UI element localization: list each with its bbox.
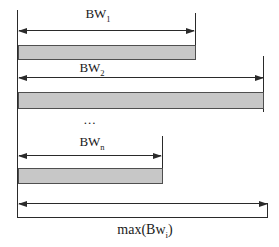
bw1-label: BW1: [58, 7, 138, 23]
bw1-arrowhead-right-icon: [186, 28, 195, 34]
bw1-arrow-shaft: [19, 30, 194, 31]
max-label: max(Bwi): [95, 222, 195, 243]
max-label-base: max(Bw: [117, 222, 165, 237]
max-arrow-shaft: [19, 203, 267, 204]
bwn-arrowhead-right-icon: [153, 153, 162, 159]
bwn-arrow-shaft: [19, 155, 161, 156]
left-baseline: [17, 10, 18, 218]
bw1-label-sub: 1: [106, 14, 110, 24]
bw2-arrow-shaft: [19, 77, 263, 78]
bwn-label: BWn: [52, 135, 132, 151]
ellipsis: ...: [70, 112, 110, 128]
bwn-label-base: BW: [79, 134, 100, 149]
bottom-line: [17, 217, 268, 218]
bwn-span-arrow: [18, 151, 162, 160]
bw2-span-arrow: [18, 73, 264, 82]
bandwidth-diagram: BW1 BW2 ... BWn max(Bwi): [0, 0, 279, 247]
max-label-close: ): [168, 222, 173, 237]
bw1-bar: [18, 45, 196, 60]
bw2-bar: [18, 92, 264, 109]
bw1-label-base: BW: [85, 6, 106, 21]
bw1-span-arrow: [18, 26, 195, 35]
max-right-connector: [267, 203, 268, 218]
max-span-arrow: [18, 199, 268, 208]
bwn-bar: [18, 168, 163, 184]
